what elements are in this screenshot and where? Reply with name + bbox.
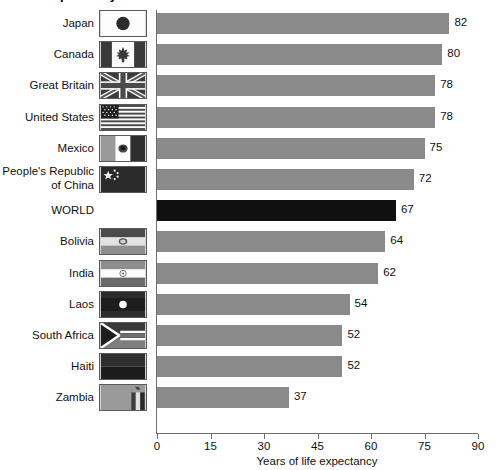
row-label-laos: Laos (0, 298, 94, 311)
chart-row: People's Republic of China72 (0, 166, 496, 193)
flag-japan-icon (99, 10, 147, 37)
bar-zambia (157, 387, 289, 408)
row-label-world: WORLD (0, 204, 94, 217)
chart-row: Bolivia64 (0, 228, 496, 255)
x-tick (318, 434, 319, 439)
bar-value-label: 82 (454, 16, 467, 28)
chart-title: Life expectancy at birth in selected cou… (18, 0, 301, 2)
chart-row: Haiti52 (0, 353, 496, 380)
chart-row: South Africa52 (0, 322, 496, 349)
bar-value-label: 78 (440, 110, 453, 122)
row-label-mexico: Mexico (0, 142, 94, 155)
row-label-people-s-republic-of-china: People's Republic of China (0, 165, 94, 192)
flag-united-states-icon (99, 104, 147, 131)
flag-zambia-icon (99, 384, 147, 411)
x-tick (211, 434, 212, 439)
chart-row: Laos54 (0, 291, 496, 318)
chart-row: Japan82 (0, 10, 496, 37)
bar-value-label: 37 (294, 390, 307, 402)
chart-row: Mexico75 (0, 135, 496, 162)
x-tick-label: 45 (311, 440, 324, 452)
bar-united-states (157, 107, 435, 128)
x-tick-label: 15 (204, 440, 217, 452)
bar-value-label: 52 (347, 328, 360, 340)
bar-south-africa (157, 325, 342, 346)
bar-great-britain (157, 75, 435, 96)
bar-japan (157, 13, 449, 34)
bar-value-label: 72 (419, 172, 432, 184)
row-label-india: India (0, 267, 94, 280)
row-label-canada: Canada (0, 48, 94, 61)
flag-great-britain-icon (99, 72, 147, 99)
chart-row: United States78 (0, 104, 496, 131)
bar-value-label: 54 (355, 297, 368, 309)
flag-bolivia-icon (99, 228, 147, 255)
x-tick (371, 434, 372, 439)
flag-laos-icon (99, 291, 147, 318)
bar-bolivia (157, 231, 385, 252)
bar-mexico (157, 138, 425, 159)
x-tick-label: 90 (472, 440, 485, 452)
bar-value-label: 52 (347, 359, 360, 371)
row-label-bolivia: Bolivia (0, 235, 94, 248)
bar-value-label: 67 (401, 203, 414, 215)
bar-value-label: 62 (383, 266, 396, 278)
flag-mexico-icon (99, 135, 147, 162)
bar-value-label: 80 (447, 47, 460, 59)
flag-haiti-icon (99, 353, 147, 380)
life-expectancy-bar-chart: Life expectancy at birth in selected cou… (0, 0, 496, 470)
bar-canada (157, 44, 442, 65)
bar-value-label: 64 (390, 234, 403, 246)
row-label-zambia: Zambia (0, 391, 94, 404)
x-tick-label: 0 (154, 440, 160, 452)
row-label-haiti: Haiti (0, 360, 94, 373)
x-tick (157, 434, 158, 439)
bar-laos (157, 294, 350, 315)
bar-india (157, 263, 378, 284)
bar-people-s-republic-of-china (157, 169, 414, 190)
x-tick (264, 434, 265, 439)
row-label-great-britain: Great Britain (0, 79, 94, 92)
flag-india-icon (99, 260, 147, 287)
x-axis-title: Years of life expectancy (156, 455, 478, 467)
bar-value-label: 78 (440, 78, 453, 90)
row-label-japan: Japan (0, 17, 94, 30)
row-label-united-states: United States (0, 111, 94, 124)
x-tick (478, 434, 479, 439)
row-label-south-africa: South Africa (0, 329, 94, 342)
x-tick-label: 30 (258, 440, 271, 452)
flag-south-africa-icon (99, 322, 147, 349)
flag-china-icon (99, 166, 147, 193)
chart-row: Zambia37 (0, 384, 496, 411)
x-tick-label: 60 (365, 440, 378, 452)
bar-world (157, 200, 396, 221)
bar-haiti (157, 356, 342, 377)
chart-row: Great Britain78 (0, 72, 496, 99)
chart-row: Canada80 (0, 41, 496, 68)
bar-value-label: 75 (430, 141, 443, 153)
x-tick-label: 75 (418, 440, 431, 452)
chart-row: WORLD67 (0, 197, 496, 224)
chart-row: India62 (0, 260, 496, 287)
flag-canada-icon (99, 41, 147, 68)
x-tick (425, 434, 426, 439)
